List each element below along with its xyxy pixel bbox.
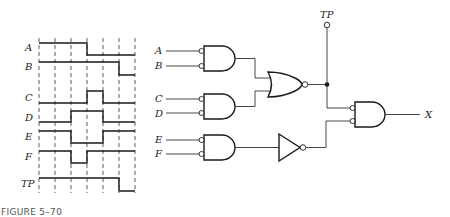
- nor-gate: [268, 72, 308, 97]
- signal-label-c: C: [25, 92, 33, 103]
- signal-label-d: D: [24, 112, 33, 123]
- input-label-a: A: [154, 45, 162, 56]
- inverter-bubble-icon: [199, 64, 204, 69]
- test-point-terminal[interactable]: [324, 22, 330, 28]
- time-gridlines: [39, 38, 135, 193]
- inverter-bubble-icon: [350, 119, 355, 124]
- timing-diagram: A B C D E F TP: [21, 38, 135, 193]
- inverter-bubble-icon: [300, 145, 306, 151]
- waveform-c: [39, 91, 135, 103]
- output-label-x: X: [424, 109, 433, 120]
- signal-label-e: E: [24, 131, 33, 142]
- inverter-bubble-icon: [350, 106, 355, 111]
- test-point-label: TP: [320, 9, 334, 20]
- waveform-f: [39, 151, 135, 163]
- inverter-gate: [279, 134, 306, 161]
- signal-label-f: F: [24, 151, 33, 162]
- and-gate-ef: [199, 135, 235, 160]
- and-gate-output: [350, 102, 385, 127]
- input-label-e: E: [154, 134, 163, 145]
- input-label-f: F: [154, 148, 163, 159]
- inverter-bubble-icon: [302, 82, 308, 88]
- and-gate-ab: [199, 46, 235, 71]
- input-label-d: D: [154, 108, 163, 119]
- input-label-b: B: [154, 60, 162, 71]
- signal-label-a: A: [24, 42, 32, 53]
- inverter-bubble-icon: [199, 152, 204, 157]
- logic-circuit: A B C D E F: [154, 9, 433, 161]
- inverter-bubble-icon: [199, 49, 204, 54]
- figure-caption: FIGURE 5–70: [1, 207, 62, 217]
- signal-label-b: B: [24, 61, 32, 72]
- inverter-bubble-icon: [199, 138, 204, 143]
- and-gate-cd: [199, 94, 235, 119]
- waveform-a: [39, 43, 135, 55]
- input-label-c: C: [155, 93, 163, 104]
- figure-canvas: A B C D E F TP FIGURE 5–70 A B C D E F: [0, 0, 450, 217]
- inverter-bubble-icon: [199, 111, 204, 116]
- signal-label-tp: TP: [21, 178, 35, 189]
- inverter-bubble-icon: [199, 97, 204, 102]
